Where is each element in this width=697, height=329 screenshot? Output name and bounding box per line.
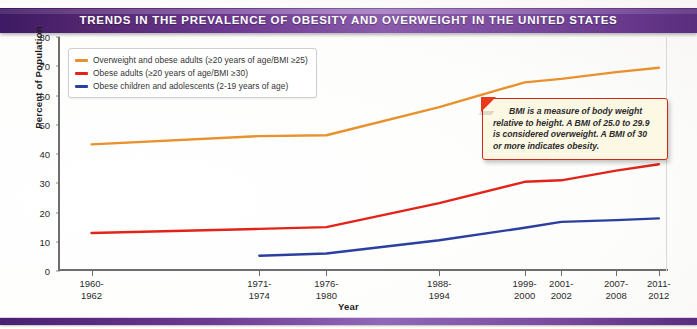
y-tick-label: 10 xyxy=(39,236,50,247)
legend-color-swatch xyxy=(75,85,88,88)
y-tick-label: 30 xyxy=(39,178,50,189)
legend-item: Obese adults (≥20 years of age/BMI ≥30) xyxy=(75,67,308,79)
x-tick-label-line: 1960- xyxy=(79,278,103,290)
x-tick-label-line: 1980 xyxy=(314,290,338,302)
y-tick-label: 60 xyxy=(39,90,50,101)
x-tick-label-line: 2008 xyxy=(604,290,628,302)
x-tick-label-line: 2012 xyxy=(647,290,671,302)
y-tick-label: 80 xyxy=(39,32,50,43)
x-tick-mark xyxy=(659,271,660,276)
x-tick-label: 2001-2002 xyxy=(549,278,573,301)
x-tick-label-line: 2000 xyxy=(512,290,536,302)
x-tick-label: 1976-1980 xyxy=(314,278,338,301)
x-tick-mark xyxy=(561,271,562,276)
y-tick-label: 20 xyxy=(39,207,50,218)
x-tick-label-line: 1962 xyxy=(79,290,103,302)
x-tick-label-line: 1999- xyxy=(512,278,536,290)
footer-bar xyxy=(0,318,697,325)
y-tick-label: 70 xyxy=(39,61,50,72)
x-tick-label-line: 1971- xyxy=(247,278,271,290)
x-tick-mark xyxy=(439,271,440,276)
callout-text: BMI is a measure of body weight relative… xyxy=(493,106,658,152)
y-tick-label: 50 xyxy=(39,119,50,130)
x-tick-label-line: 1974 xyxy=(247,290,271,302)
bmi-callout: BMI is a measure of body weight relative… xyxy=(482,98,668,160)
y-tick-label: 40 xyxy=(39,149,50,160)
x-tick-label-line: 2002 xyxy=(549,290,573,302)
y-tick-label: 0 xyxy=(45,266,50,277)
legend-item: Obese children and adolescents (2-19 yea… xyxy=(75,80,308,92)
x-tick-label-line: 2007- xyxy=(604,278,628,290)
page-title: TRENDS IN THE PREVALENCE OF OBESITY AND … xyxy=(0,8,697,33)
x-tick-label: 1999-2000 xyxy=(512,278,536,301)
x-tick-mark xyxy=(92,271,93,276)
x-tick-label-line: 2011- xyxy=(647,278,671,290)
x-axis-title: Year xyxy=(0,301,697,312)
legend-item-label: Obese adults (≥20 years of age/BMI ≥30) xyxy=(93,68,248,78)
title-banner: TRENDS IN THE PREVALENCE OF OBESITY AND … xyxy=(0,8,697,33)
x-tick-label-line: 2001- xyxy=(549,278,573,290)
x-tick-label: 2007-2008 xyxy=(604,278,628,301)
x-tick-mark xyxy=(259,271,260,276)
x-tick-mark xyxy=(616,271,617,276)
x-tick-label: 1960-1962 xyxy=(79,278,103,301)
x-tick-mark xyxy=(525,271,526,276)
x-tick-label-line: 1988- xyxy=(427,278,451,290)
legend-item: Overweight and obese adults (≥20 years o… xyxy=(75,54,308,66)
legend-item-label: Overweight and obese adults (≥20 years o… xyxy=(93,55,308,65)
x-tick-mark xyxy=(326,271,327,276)
x-axis-ticks: 1960-19621971-19741976-19801988-19941999… xyxy=(58,271,668,305)
x-tick-label: 1971-1974 xyxy=(247,278,271,301)
chart-series-line xyxy=(259,218,659,255)
legend-color-swatch xyxy=(75,59,88,62)
x-tick-label-line: 1994 xyxy=(427,290,451,302)
folded-corner-icon xyxy=(481,97,496,112)
x-tick-label: 1988-1994 xyxy=(427,278,451,301)
y-axis-ticks: 01020304050607080 xyxy=(0,37,58,271)
legend-color-swatch xyxy=(75,72,88,75)
legend-item-label: Obese children and adolescents (2-19 yea… xyxy=(93,81,288,91)
x-tick-label: 2011-2012 xyxy=(647,278,671,301)
chart-legend: Overweight and obese adults (≥20 years o… xyxy=(68,48,317,98)
x-tick-label-line: 1976- xyxy=(314,278,338,290)
